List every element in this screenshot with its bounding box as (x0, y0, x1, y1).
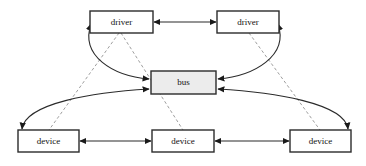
edge-driver-right-binds-device-right (249, 33, 320, 130)
bus-label: bus (177, 77, 190, 87)
node-device-right[interactable]: device (290, 130, 351, 152)
node-device-middle[interactable]: device (152, 130, 214, 152)
device-middle-label: device (171, 136, 194, 146)
device-right-label: device (309, 136, 332, 146)
diagram-canvas: driver driver bus device device device (0, 0, 366, 166)
node-driver-left[interactable]: driver (90, 11, 153, 33)
edge-driver-left-binds-device-left (49, 33, 119, 130)
node-bus[interactable]: bus (151, 71, 216, 94)
driver-left-label: driver (111, 17, 133, 27)
node-driver-right[interactable]: driver (217, 11, 279, 33)
device-left-label: device (37, 136, 60, 146)
diagram-svg: driver driver bus device device device (0, 0, 366, 166)
edge-bus-to-device-right (218, 89, 348, 129)
driver-right-label: driver (237, 17, 259, 27)
node-device-left[interactable]: device (18, 130, 79, 152)
edge-bus-to-device-left (22, 89, 149, 129)
